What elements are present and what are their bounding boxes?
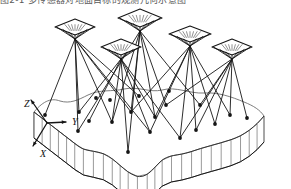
observation-ray-32 bbox=[232, 59, 247, 118]
ground-target-t14 bbox=[194, 128, 198, 132]
observation-ray-31 bbox=[230, 59, 232, 115]
ground-target-t3 bbox=[77, 110, 81, 114]
ground-target-t16 bbox=[213, 122, 217, 126]
observation-ray-25 bbox=[190, 46, 215, 124]
ground-target-t7 bbox=[126, 150, 130, 154]
z-axis-label: Z bbox=[24, 98, 30, 109]
ground-target-t20 bbox=[94, 96, 98, 100]
observation-ray-28 bbox=[196, 59, 232, 130]
y-axis-line-arrowhead bbox=[62, 120, 66, 124]
sensor-platform-1 bbox=[55, 19, 95, 39]
ground-target-t15 bbox=[198, 103, 202, 107]
ground-target-t19 bbox=[167, 89, 171, 93]
figure-root: 图2-1 多传感器对地面目标的观测几何示意图 Z Y X bbox=[0, 0, 291, 189]
sensor-platform-2 bbox=[101, 39, 141, 59]
ground-target-t1 bbox=[43, 113, 47, 117]
ground-target-t6 bbox=[108, 98, 112, 102]
diagram-canvas: Z Y X bbox=[0, 0, 291, 189]
terrain-slab-group bbox=[34, 88, 264, 189]
ground-target-t9 bbox=[148, 130, 152, 134]
slab-side-front bbox=[34, 112, 264, 189]
x-axis-label: X bbox=[39, 148, 47, 159]
observation-ray-0 bbox=[45, 39, 75, 115]
ground-target-t4 bbox=[87, 119, 91, 123]
ground-target-t13 bbox=[178, 136, 182, 140]
ground-target-t2 bbox=[76, 129, 80, 133]
ground-target-t8 bbox=[129, 110, 133, 114]
ground-target-t5 bbox=[110, 120, 114, 124]
observation-ray-34 bbox=[180, 59, 232, 138]
observation-ray-12 bbox=[121, 59, 180, 138]
ground-target-t12 bbox=[137, 94, 141, 98]
ground-target-t10 bbox=[153, 115, 157, 119]
observation-ray-26 bbox=[190, 46, 230, 115]
ground-target-t11 bbox=[164, 103, 168, 107]
observation-ray-19 bbox=[140, 31, 166, 105]
sensor-platform-4 bbox=[169, 26, 211, 46]
ground-target-t17 bbox=[228, 113, 232, 117]
sensor-platform-3 bbox=[118, 9, 162, 31]
sensor-platform-5 bbox=[212, 39, 252, 59]
ground-target-t18 bbox=[245, 116, 249, 120]
